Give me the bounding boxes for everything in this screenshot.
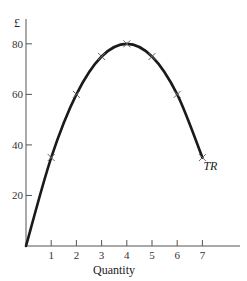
- x-axis-label: Quantity: [93, 263, 135, 277]
- x-tick-label: 7: [200, 249, 206, 261]
- y-tick-label: 40: [12, 139, 24, 151]
- x-tick-label: 3: [99, 249, 105, 261]
- tr-series-label: TR: [203, 159, 218, 173]
- y-tick-label: 20: [12, 189, 24, 201]
- x-tick-label: 5: [149, 249, 155, 261]
- x-tick-label: 4: [124, 249, 130, 261]
- data-point-markers: [48, 40, 206, 161]
- x-tick-label: 6: [174, 249, 180, 261]
- x-tick-label: 2: [74, 249, 80, 261]
- total-revenue-chart: £ 20406080 1234567 Quantity TR: [0, 0, 247, 281]
- y-axis-unit-label: £: [14, 16, 20, 30]
- y-tick-label: 80: [12, 38, 24, 50]
- tr-curve: [26, 44, 202, 246]
- x-tick-label: 1: [48, 249, 54, 261]
- y-ticks: 20406080: [12, 38, 32, 202]
- x-ticks: 1234567: [48, 240, 205, 261]
- axes: [26, 19, 240, 246]
- y-tick-label: 60: [12, 88, 24, 100]
